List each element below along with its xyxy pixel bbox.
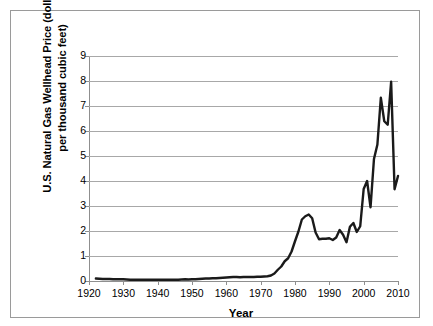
y-tick-label: 6: [62, 124, 86, 136]
x-axis-label: Year: [71, 307, 411, 319]
chart-frame: U.S. Natural Gas Wellhead Price (dollars…: [10, 10, 420, 318]
y-tick-label: 1: [62, 249, 86, 261]
y-tick-label: 2: [62, 224, 86, 236]
y-tick-label: 8: [62, 74, 86, 86]
y-axis-label-line1: U.S. Natural Gas Wellhead Price (dollars: [41, 0, 53, 193]
y-tick-label: 5: [62, 149, 86, 161]
x-tick-mark: [398, 281, 399, 285]
y-tick-label: 0: [62, 274, 86, 286]
y-tick-label: 7: [62, 99, 86, 111]
y-tick-label: 4: [62, 174, 86, 186]
y-tick-label: 3: [62, 199, 86, 211]
plot-area: 0123456789 19201930194019501960197019801…: [89, 56, 398, 281]
chart-figure: U.S. Natural Gas Wellhead Price (dollars…: [0, 0, 433, 326]
y-tick-label: 9: [62, 49, 86, 61]
x-tick-label: 2010: [375, 287, 421, 299]
price-line-series: [89, 56, 398, 282]
